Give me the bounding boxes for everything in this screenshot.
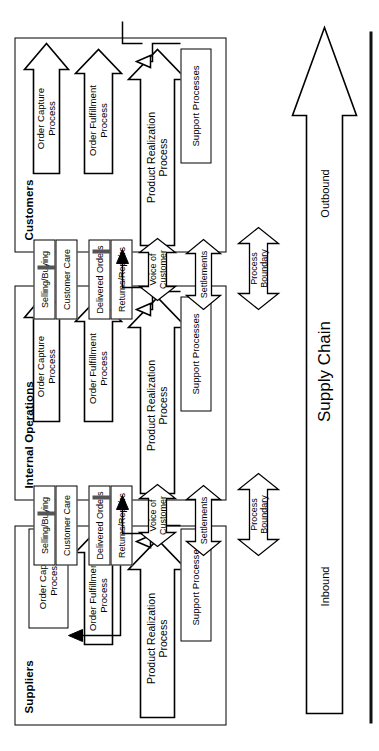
delivered-orders-marker-1: [92, 495, 110, 499]
panel-customers-title: Customers: [22, 179, 34, 240]
supply-chain-outbound-label: Outbound: [308, 143, 340, 243]
process-boundary-arrow-2: Process Boundary: [238, 227, 278, 309]
selling-buying-label-2: Selling/Buying: [34, 240, 54, 318]
diagram-canvas: Suppliers Internal Operations Customers …: [0, 0, 379, 751]
delivered-orders-marker-2: [92, 249, 110, 253]
selling-buying-bar-2: Selling/Buying: [33, 239, 55, 319]
support-processes-box-customers: Support Processes: [180, 48, 211, 163]
selling-buying-marker-2: [37, 265, 55, 269]
support-processes-label-customers: Support Processes: [181, 49, 210, 162]
customer-care-bar-1: Customer Care: [55, 485, 77, 565]
settlements-arrow-2: Settlements: [186, 239, 220, 309]
diagram-page: Suppliers Internal Operations Customers …: [0, 0, 379, 751]
supply-chain-label: Supply Chain: [306, 291, 342, 451]
support-processes-box-internal: Support Processes: [180, 296, 211, 411]
voc-to-fulfillment-connector-1: [112, 491, 146, 541]
settlements-arrow-1: Settlements: [186, 485, 220, 555]
process-boundary-arrow-1: Process Boundary: [238, 473, 278, 555]
customer-care-label-2: Customer Care: [56, 240, 76, 318]
selling-buying-label-1: Selling/Buying: [34, 486, 54, 564]
customer-care-label-1: Customer Care: [56, 486, 76, 564]
order-capture-arrow-customers: Order Capture Process: [24, 43, 68, 173]
voc-to-fulfillment-connector-3: [112, 1, 146, 51]
product-realization-arrow-suppliers: Product Realization Process: [128, 539, 186, 717]
supply-chain-inbound-label: Inbound: [308, 541, 340, 631]
support-processes-label-internal: Support Processes: [181, 297, 210, 410]
voc-to-fulfillment-connector-2: [112, 245, 146, 295]
panel-suppliers-title: Suppliers: [22, 660, 34, 713]
customer-care-bar-2: Customer Care: [55, 239, 77, 319]
selling-buying-marker-1: [37, 511, 55, 515]
selling-buying-bar-1: Selling/Buying: [33, 485, 55, 565]
bottom-divider-rule: [369, 31, 372, 723]
